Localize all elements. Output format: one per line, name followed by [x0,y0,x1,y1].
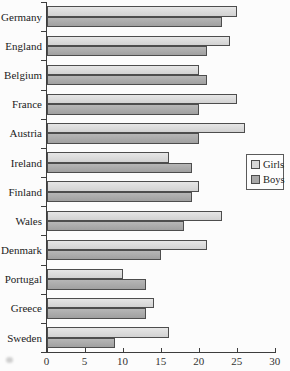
y-axis-tick [41,60,47,61]
bar-boys-belgium [47,75,207,85]
x-tick-label: 0 [37,355,57,368]
x-axis-tick [199,348,200,352]
category-label-germany: Germany [0,10,42,24]
bar-boys-denmark [47,250,161,260]
bar-boys-austria [47,133,199,143]
bar-girls-france [47,94,237,104]
girls-swatch-icon [251,160,260,169]
category-label-austria: Austria [0,126,42,140]
category-label-wales: Wales [0,214,42,228]
bar-girls-austria [47,123,245,133]
bar-boys-sweden [47,338,115,348]
legend: Girls Boys [246,154,284,190]
x-tick-label: 30 [265,355,285,368]
bar-girls-greece [47,298,154,308]
x-axis-tick [123,348,124,352]
y-axis-tick [41,177,47,178]
x-axis-tick [275,348,276,352]
bar-girls-belgium [47,65,199,75]
x-tick-label: 5 [75,355,95,368]
y-axis-tick [41,148,47,149]
scan-artifact [6,357,13,363]
y-axis-tick [41,119,47,120]
x-tick-label: 10 [113,355,133,368]
y-axis-tick [41,352,47,353]
category-label-france: France [0,97,42,111]
x-axis-tick [237,348,238,352]
bar-girls-wales [47,211,222,221]
y-axis-tick [41,323,47,324]
category-label-sweden: Sweden [0,331,42,345]
legend-label-boys: Boys [263,173,285,186]
x-axis-tick [47,348,48,352]
bar-boys-ireland [47,163,192,173]
bar-boys-wales [47,221,184,231]
legend-item-girls: Girls [251,158,283,171]
category-label-finland: Finland [0,185,42,199]
bar-boys-finland [47,192,192,202]
category-label-belgium: Belgium [0,68,42,82]
bar-girls-ireland [47,152,169,162]
x-axis-tick [85,348,86,352]
x-tick-label: 20 [189,355,209,368]
category-label-portugal: Portugal [0,272,42,286]
bar-girls-england [47,36,230,46]
y-axis-tick [41,206,47,207]
y-axis-tick [41,265,47,266]
y-axis-tick [41,2,47,3]
bar-girls-germany [47,6,237,16]
bar-boys-france [47,104,199,114]
bar-boys-portugal [47,279,146,289]
legend-item-boys: Boys [251,173,283,186]
y-axis-tick [41,235,47,236]
y-axis-tick [41,31,47,32]
category-label-denmark: Denmark [0,243,42,257]
y-axis-tick [41,294,47,295]
x-axis-tick [161,348,162,352]
bar-girls-portugal [47,269,123,279]
bar-girls-denmark [47,240,207,250]
category-label-greece: Greece [0,301,42,315]
x-axis-line [46,352,276,353]
legend-label-girls: Girls [263,158,284,171]
bar-girls-finland [47,181,199,191]
bar-boys-england [47,46,207,56]
x-tick-label: 15 [151,355,171,368]
category-label-ireland: Ireland [0,156,42,170]
category-label-england: England [0,39,42,53]
bar-boys-greece [47,308,146,318]
bar-girls-sweden [47,327,169,337]
y-axis-tick [41,90,47,91]
x-tick-label: 25 [227,355,247,368]
bar-chart-figure: 051015202530GermanyEnglandBelgiumFranceA… [0,0,290,371]
bar-boys-germany [47,17,222,27]
boys-swatch-icon [251,175,260,184]
